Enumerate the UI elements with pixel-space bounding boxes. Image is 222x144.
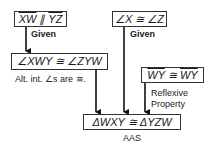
- reason-aas: AAS: [123, 133, 141, 143]
- reason-given-2: Given: [130, 29, 155, 39]
- segment-wy: WY: [180, 69, 198, 81]
- statement-angle-x-congruent-z: ∠X ≅ ∠Z: [112, 11, 167, 27]
- congruent-symbol: ≅: [165, 69, 180, 81]
- statement-angle-xwy-congruent-zyw: ∠XWY ≅ ∠ZYW: [11, 53, 108, 70]
- statement-wy-congruent-wy: WY ≅ WY: [141, 67, 204, 83]
- segment-wy: WY: [147, 69, 165, 81]
- conclusion-triangle-wxy-congruent-yzw: ΔWXY ≅ ΔYZW: [83, 114, 181, 130]
- reason-given-1: Given: [31, 29, 56, 39]
- parallel-symbol: ∥: [36, 13, 48, 25]
- reason-reflexive-line2: Property: [151, 99, 185, 109]
- segment-yz: YZ: [48, 13, 62, 25]
- reason-alt-int-angles: Alt. int. ∠s are ≅.: [15, 74, 86, 84]
- segment-xw: XW: [19, 13, 37, 25]
- statement-xw-parallel-yz: XW ∥ YZ: [14, 11, 67, 27]
- reason-reflexive-line1: Reflexive: [151, 88, 188, 98]
